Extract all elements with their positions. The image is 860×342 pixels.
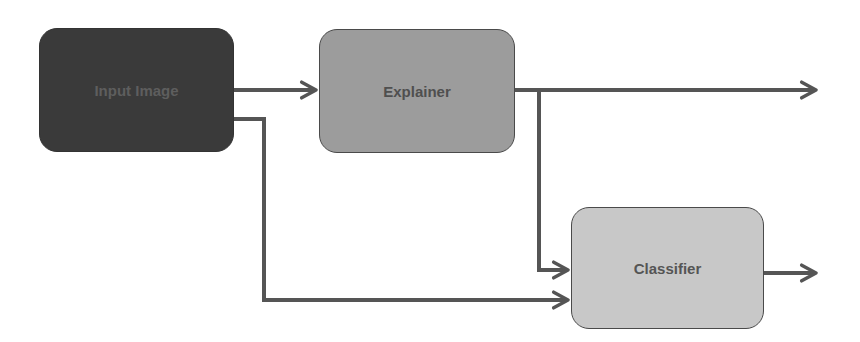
node-explainer-label: Explainer (383, 83, 451, 100)
diagram-canvas: Input Image Explainer Classifier (0, 0, 860, 342)
node-explainer: Explainer (319, 29, 515, 153)
node-input-image-label: Input Image (94, 82, 178, 99)
edge-explainer-to-classifier (539, 90, 568, 270)
node-classifier-label: Classifier (634, 260, 702, 277)
node-classifier: Classifier (571, 207, 764, 329)
node-input-image: Input Image (39, 28, 234, 152)
